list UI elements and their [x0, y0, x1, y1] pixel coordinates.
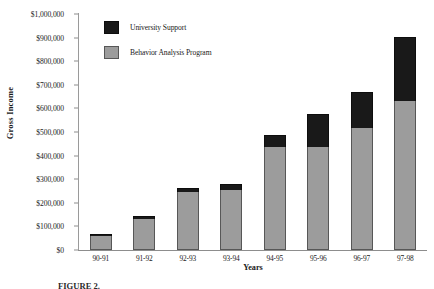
bar-segment-behavior-analysis-program: [177, 192, 199, 250]
x-tick-label: 93-94: [207, 254, 255, 263]
figure-gross-income-chart: Gross Income $0$100,000$200,000$300,000$…: [0, 0, 434, 289]
bar-segment-behavior-analysis-program: [394, 101, 416, 250]
y-tick-label: $700,000: [36, 80, 64, 89]
y-tick-label: $200,000: [36, 198, 64, 207]
table-row: [351, 92, 373, 250]
x-tick-label: 90-91: [77, 254, 125, 263]
table-row: [394, 37, 416, 250]
table-row: [220, 184, 242, 250]
figure-caption: FIGURE 2.: [58, 281, 100, 289]
legend-swatch-support: [104, 21, 119, 34]
y-tick-label: $300,000: [36, 175, 64, 184]
bar-slot: [394, 14, 416, 250]
x-tick-label: 92-93: [164, 254, 212, 263]
chart-legend: University SupportBehavior Analysis Prog…: [104, 20, 304, 70]
x-tick-label: 97-98: [381, 254, 429, 263]
bar-segment-university-support: [264, 135, 286, 147]
y-tick-label: $900,000: [36, 33, 64, 42]
bar-slot: [351, 14, 373, 250]
bar-segment-university-support: [394, 37, 416, 101]
bar-segment-behavior-analysis-program: [351, 128, 373, 250]
bar-segment-behavior-analysis-program: [220, 190, 242, 250]
bar-segment-university-support: [307, 114, 329, 147]
bar-segment-behavior-analysis-program: [307, 147, 329, 250]
table-row: [90, 234, 112, 250]
legend-swatch-program: [104, 46, 119, 59]
y-tick-label: $500,000: [36, 128, 64, 137]
bar-segment-behavior-analysis-program: [133, 219, 155, 250]
bar-segment-university-support: [351, 92, 373, 127]
bar-segment-behavior-analysis-program: [90, 236, 112, 250]
y-tick-label: $1,000,000: [31, 10, 64, 19]
table-row: [307, 114, 329, 250]
y-tick-label: $800,000: [36, 57, 64, 66]
bar-slot: [307, 14, 329, 250]
x-axis-title: Years: [79, 263, 427, 272]
legend-item-label: University Support: [130, 23, 186, 32]
y-tick-label: $0: [57, 246, 64, 255]
y-axis-tick-labels: $0$100,000$200,000$300,000$400,000$500,0…: [0, 0, 74, 289]
x-axis-line: [78, 250, 427, 251]
legend-item: Behavior Analysis Program: [104, 45, 304, 59]
bar-segment-behavior-analysis-program: [264, 147, 286, 250]
table-row: [177, 188, 199, 250]
legend-item: University Support: [104, 20, 304, 34]
table-row: [133, 216, 155, 250]
x-tick-label: 95-96: [294, 254, 342, 263]
y-tick-label: $600,000: [36, 104, 64, 113]
table-row: [264, 135, 286, 250]
x-tick-label: 91-92: [120, 254, 168, 263]
x-tick-label: 94-95: [251, 254, 299, 263]
legend-item-label: Behavior Analysis Program: [130, 48, 211, 57]
y-tick-label: $100,000: [36, 222, 64, 231]
x-tick-label: 96-97: [338, 254, 386, 263]
y-tick-label: $400,000: [36, 151, 64, 160]
